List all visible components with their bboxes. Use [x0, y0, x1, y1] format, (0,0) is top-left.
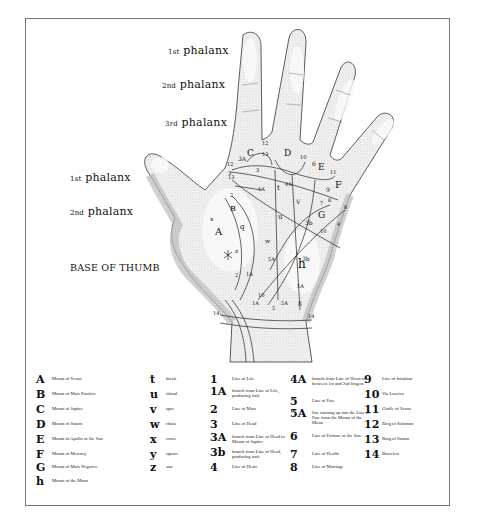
legend-label: Mount of Saturn	[52, 421, 127, 426]
legend-symbol: 13	[364, 434, 379, 445]
legend-symbol: 10	[364, 389, 379, 400]
legend-label: Line of Fate	[312, 398, 372, 403]
legend-label: star	[166, 464, 196, 469]
legend-label: Mount of Apollo or the Sun	[52, 436, 127, 441]
legend-label: Mount of Venus	[52, 376, 127, 381]
legend-label: square	[166, 451, 196, 456]
legend-label: Mount of Mercury	[52, 451, 127, 456]
legend-symbol: 1A	[210, 386, 226, 397]
legend-symbol: t	[150, 374, 155, 385]
legend-symbol: 8	[290, 462, 298, 473]
legend-symbol: z	[150, 462, 156, 473]
legend-symbol: v	[150, 404, 156, 415]
legend-label: Line of Marriage	[312, 464, 372, 469]
legend-symbol: E	[36, 434, 44, 445]
legend-label: chain	[166, 421, 196, 426]
legend-label: Via Lasciva	[382, 391, 442, 396]
legend-label: Line of Heart	[232, 464, 290, 469]
legend-label: Mount of Jupiter	[52, 406, 127, 411]
legend-label: Line of Intuition	[382, 376, 442, 381]
legend-symbol: 14	[364, 449, 379, 460]
legend-label: Mount of the Moon	[52, 478, 127, 483]
legend-symbol: 3A	[210, 432, 226, 443]
legend-label: branch from Line of Head to Mount of Jup…	[232, 434, 290, 444]
legend-symbol: 3	[210, 419, 218, 430]
legend-symbol: 5A	[290, 408, 306, 419]
legend-symbol: x	[150, 434, 157, 445]
legend-label: Girdle of Venus	[382, 406, 442, 411]
legend-label: cross	[166, 436, 196, 441]
legend-symbol: 11	[364, 404, 379, 415]
legend-label: Mount of Mars Negative	[52, 464, 127, 469]
legend-label: branch from Line of Life, producing fork	[232, 388, 290, 398]
legend-label: branch from Line of Head, producing fork	[232, 449, 290, 459]
legend-symbol: B	[36, 389, 45, 400]
legend: AMount of VenusBMount of Mars PositiveCM…	[0, 0, 478, 532]
legend-label: break	[166, 376, 196, 381]
legend-symbol: 2	[210, 404, 218, 415]
legend-label: Line of Head	[232, 421, 290, 426]
legend-symbol: D	[36, 419, 46, 430]
legend-symbol: u	[150, 389, 158, 400]
legend-label: island	[166, 391, 196, 396]
legend-label: Line of Mars	[232, 406, 290, 411]
legend-symbol: y	[150, 449, 156, 460]
legend-label: Line of Health	[312, 451, 372, 456]
legend-symbol: 4A	[290, 374, 306, 385]
legend-symbol: 4	[210, 462, 218, 473]
legend-label: branch from Line of Heart to between 1st…	[312, 376, 372, 386]
legend-symbol: F	[36, 449, 44, 460]
legend-label: Mount of Mars Positive	[52, 391, 127, 396]
legend-label: Bracelets	[382, 451, 442, 456]
legend-symbol: w	[150, 419, 159, 430]
legend-symbol: 12	[364, 419, 379, 430]
legend-symbol: 3b	[210, 447, 225, 458]
legend-symbol: 5	[290, 396, 298, 407]
legend-label: line running up into the Line of Fate fr…	[312, 410, 372, 426]
legend-label: Ring of Saturn	[382, 436, 442, 441]
legend-symbol: 6	[290, 431, 298, 442]
legend-symbol: 1	[210, 374, 218, 385]
legend-label: Line of Life	[232, 376, 290, 381]
legend-symbol: C	[36, 404, 45, 415]
legend-symbol: 9	[364, 374, 372, 385]
legend-symbol: h	[36, 476, 44, 487]
legend-label: spot	[166, 406, 196, 411]
legend-label: Line of Fortune or the Sun	[312, 433, 372, 438]
legend-symbol: G	[36, 462, 45, 473]
legend-symbol: 7	[290, 449, 298, 460]
legend-symbol: A	[36, 374, 45, 385]
legend-label: Ring of Solomon	[382, 421, 442, 426]
